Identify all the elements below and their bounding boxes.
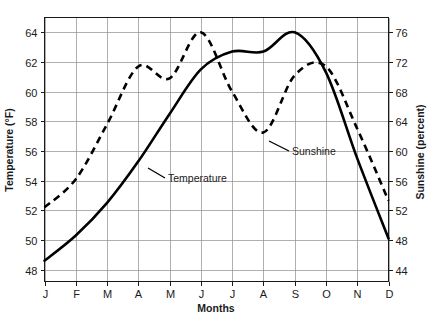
right-tick-44: 44 bbox=[396, 265, 408, 277]
month-tick-december: D bbox=[386, 288, 394, 300]
left-axis-title: Temperature (°F) bbox=[3, 108, 15, 191]
left-tick-60: 60 bbox=[25, 87, 37, 99]
right-tick-60: 60 bbox=[396, 146, 408, 158]
left-tick-52: 52 bbox=[25, 205, 37, 217]
left-tick-58: 58 bbox=[25, 116, 37, 128]
right-tick-68: 68 bbox=[396, 87, 408, 99]
month-tick-august: A bbox=[260, 288, 268, 300]
month-tick-february: F bbox=[73, 288, 80, 300]
right-axis-tick-labels: 444852566064687276 bbox=[396, 27, 408, 277]
left-tick-50: 50 bbox=[25, 235, 37, 247]
month-tick-april: A bbox=[135, 288, 143, 300]
left-tick-48: 48 bbox=[25, 265, 37, 277]
bottom-axis-title: Months bbox=[197, 302, 234, 314]
month-tick-november: N bbox=[354, 288, 362, 300]
right-tick-52: 52 bbox=[396, 205, 408, 217]
right-tick-56: 56 bbox=[396, 176, 408, 188]
chart-canvas: 485052545658606264 444852566064687276 JF… bbox=[0, 0, 434, 319]
right-tick-76: 76 bbox=[396, 27, 408, 39]
right-tick-48: 48 bbox=[396, 235, 408, 247]
left-tick-62: 62 bbox=[25, 57, 37, 69]
left-tick-54: 54 bbox=[25, 176, 37, 188]
temperature-series-label: Temperature bbox=[168, 172, 227, 184]
month-tick-may: M bbox=[166, 288, 175, 300]
sunshine-series-label: Sunshine bbox=[292, 145, 336, 157]
left-tick-64: 64 bbox=[25, 27, 37, 39]
chart-background bbox=[0, 0, 434, 319]
month-tick-september: S bbox=[292, 288, 299, 300]
month-tick-january: J bbox=[43, 288, 49, 300]
left-tick-56: 56 bbox=[25, 146, 37, 158]
month-tick-october: O bbox=[322, 288, 331, 300]
right-tick-64: 64 bbox=[396, 116, 408, 128]
month-tick-july: J bbox=[230, 288, 236, 300]
month-tick-march: M bbox=[103, 288, 112, 300]
month-tick-june: J bbox=[199, 288, 205, 300]
right-axis-title: Sunshine (percent) bbox=[414, 104, 426, 199]
right-tick-72: 72 bbox=[396, 57, 408, 69]
climate-chart: 485052545658606264 444852566064687276 JF… bbox=[0, 0, 434, 319]
left-axis-tick-labels: 485052545658606264 bbox=[25, 27, 37, 277]
